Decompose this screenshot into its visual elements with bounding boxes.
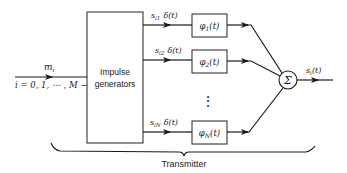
summer: Σ (279, 71, 297, 89)
branch-1-coef-label: si1δ(t) (151, 11, 178, 21)
filter-1-label: φ1(t) (200, 21, 220, 32)
filter-n-label: φN(t) (199, 128, 220, 139)
input-signal: mi i = 0, 1, ⋯ , M − 1 (15, 62, 96, 90)
output-signal: si(t) (297, 66, 333, 80)
output-label: si(t) (306, 66, 321, 76)
input-range-label: i = 0, 1, ⋯ , M − 1 (15, 80, 96, 90)
input-symbol-label: mi (44, 62, 55, 73)
branch-ellipsis: ⋮ (201, 93, 215, 109)
branch-n-to-sum (246, 88, 283, 132)
impulse-generators-label-line1: Impulse (100, 67, 130, 77)
sigma-icon: Σ (283, 74, 292, 87)
branch-2: si2δ(t) φ2(t) (143, 46, 280, 76)
impulse-generators-label-line2: generators (95, 79, 136, 89)
transmitter-brace (51, 143, 315, 156)
impulse-generators-block: Impulse generators (87, 12, 143, 143)
filter-2-label: φ2(t) (200, 57, 220, 68)
impulse-generators-box (87, 12, 143, 143)
transmitter-label: Transmitter (161, 159, 206, 169)
branch-1-to-sum (246, 25, 282, 73)
branch-n-coef-label: siNδ(t) (150, 118, 178, 128)
branch-2-to-sum (246, 61, 280, 76)
transmitter-diagram: mi i = 0, 1, ⋯ , M − 1 Impulse generator… (0, 0, 347, 173)
branch-2-coef-label: si2δ(t) (155, 46, 182, 56)
